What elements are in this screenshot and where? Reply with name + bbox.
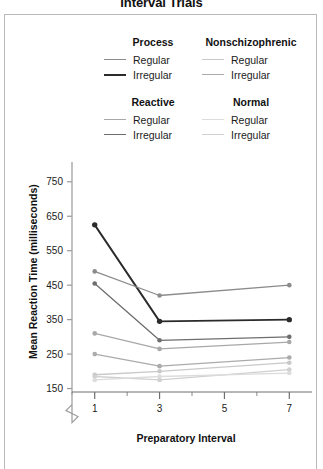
axis-lines — [66, 162, 312, 423]
x-axis-title: Preparatory Interval — [136, 432, 235, 444]
svg-text:150: 150 — [46, 383, 63, 394]
data-series — [92, 371, 291, 382]
svg-text:650: 650 — [46, 211, 63, 222]
legend-group-normal: Normal Regular Irregular — [186, 96, 316, 142]
frame-border-top — [4, 14, 317, 15]
data-point — [287, 317, 292, 322]
data-point — [157, 364, 162, 369]
line-chart-svg: 150250350450550650750 1357 Preparatory I… — [0, 150, 323, 450]
data-series — [92, 352, 291, 369]
legend-item-label: Regular — [231, 54, 268, 66]
legend-item-nonschizophrenic-regular[interactable]: Regular — [186, 52, 316, 67]
legend-row-top: Process Regular Irregular Nonschizophren… — [0, 36, 323, 96]
legend-group-nonschizophrenic: Nonschizophrenic Regular Irregular — [186, 36, 316, 82]
svg-text:1: 1 — [92, 403, 98, 414]
data-series — [92, 331, 291, 351]
legend-swatch-line — [202, 74, 224, 75]
chart-legend: Process Regular Irregular Nonschizophren… — [0, 36, 323, 156]
legend-item-label: Regular — [133, 114, 170, 126]
data-series — [92, 281, 291, 342]
svg-text:550: 550 — [46, 245, 63, 256]
data-point — [92, 331, 97, 336]
series-line — [95, 283, 290, 340]
chart-title: Interval Trials — [0, 0, 323, 10]
legend-swatch-line — [104, 134, 126, 135]
legend-item-normal-regular[interactable]: Regular — [186, 112, 316, 127]
series-line — [95, 271, 290, 295]
legend-swatch-line — [202, 59, 224, 60]
svg-text:750: 750 — [46, 176, 63, 187]
y-axis-ticks: 150250350450550650750 — [46, 176, 72, 394]
plot-area: Mean Reaction Time (milliseconds) 150250… — [0, 150, 323, 450]
data-point — [157, 319, 162, 324]
data-point — [92, 281, 97, 286]
legend-item-normal-irregular[interactable]: Irregular — [186, 127, 316, 142]
data-point — [287, 355, 292, 360]
y-axis-title: Mean Reaction Time (milliseconds) — [27, 189, 39, 359]
data-series-layer — [92, 222, 292, 382]
data-point — [157, 338, 162, 343]
legend-swatch-line — [104, 119, 126, 120]
svg-text:5: 5 — [222, 403, 228, 414]
legend-item-label: Irregular — [231, 129, 270, 141]
data-point — [157, 293, 162, 298]
data-point — [287, 335, 292, 340]
legend-item-label: Irregular — [133, 129, 172, 141]
data-point — [92, 269, 97, 274]
svg-text:350: 350 — [46, 314, 63, 325]
data-point — [157, 347, 162, 352]
legend-swatch-line — [202, 134, 224, 135]
chart-page: Interval Trials Process Regular Irregula… — [0, 0, 323, 469]
x-axis-ticks: 1357 — [92, 392, 293, 414]
data-point — [287, 283, 292, 288]
legend-item-label: Regular — [133, 54, 170, 66]
data-point — [157, 374, 162, 379]
series-line — [95, 373, 290, 380]
legend-swatch-line — [202, 119, 224, 120]
legend-group-title: Nonschizophrenic — [186, 36, 316, 48]
data-point — [92, 378, 97, 383]
data-series — [92, 222, 292, 324]
legend-item-label: Irregular — [231, 69, 270, 81]
legend-row-bottom: Reactive Regular Irregular Normal Regula… — [0, 96, 323, 156]
svg-text:450: 450 — [46, 280, 63, 291]
data-series — [92, 269, 291, 298]
series-line — [95, 333, 290, 349]
legend-group-title: Normal — [186, 96, 316, 108]
data-point — [92, 222, 97, 227]
legend-swatch-line — [104, 74, 126, 76]
series-line — [95, 225, 290, 321]
svg-text:7: 7 — [287, 403, 293, 414]
data-series — [92, 360, 291, 377]
data-point — [287, 371, 292, 376]
data-point — [92, 352, 97, 357]
legend-swatch-line — [104, 59, 126, 60]
svg-text:3: 3 — [157, 403, 163, 414]
legend-item-nonschizophrenic-irregular[interactable]: Irregular — [186, 67, 316, 82]
data-point — [287, 340, 292, 345]
svg-text:250: 250 — [46, 349, 63, 360]
legend-item-label: Regular — [231, 114, 268, 126]
legend-item-label: Irregular — [133, 69, 172, 81]
data-point — [157, 369, 162, 374]
data-point — [287, 360, 292, 365]
